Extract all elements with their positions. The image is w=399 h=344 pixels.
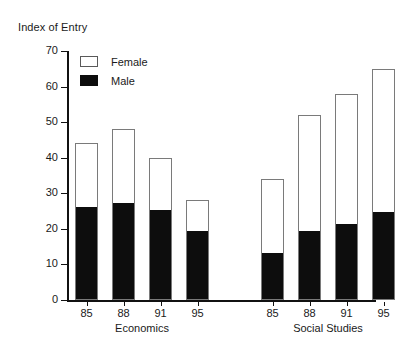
x-tick-label: 91 — [146, 307, 176, 319]
bar-economics-85[interactable] — [75, 143, 98, 300]
bar-social-studies-91[interactable] — [335, 94, 358, 300]
bar-segment-male — [76, 207, 97, 299]
x-tick-label: 91 — [332, 307, 362, 319]
bar-economics-95[interactable] — [186, 200, 209, 300]
x-tick-label: 95 — [183, 307, 213, 319]
bar-segment-male — [262, 253, 283, 299]
bar-segment-male — [187, 231, 208, 299]
x-tick-label: 88 — [109, 307, 139, 319]
legend-swatch-male-icon — [80, 75, 98, 86]
x-tick-mark — [198, 302, 199, 306]
group-label-social-studies: Social Studies — [221, 322, 399, 334]
bar-segment-male — [113, 203, 134, 299]
bar-social-studies-95[interactable] — [372, 69, 395, 300]
x-tick-mark — [87, 302, 88, 306]
legend-label-female: Female — [111, 56, 148, 68]
x-tick-mark — [310, 302, 311, 306]
x-tick-mark — [347, 302, 348, 306]
x-tick-mark — [384, 302, 385, 306]
x-tick-mark — [161, 302, 162, 306]
x-tick-mark — [124, 302, 125, 306]
legend-label-male: Male — [111, 75, 135, 87]
legend: Female Male — [80, 52, 148, 90]
x-tick-mark — [273, 302, 274, 306]
bar-social-studies-88[interactable] — [298, 115, 321, 300]
bar-segment-male — [299, 231, 320, 299]
legend-item-female[interactable]: Female — [80, 52, 148, 71]
x-tick-label: 95 — [369, 307, 399, 319]
bar-segment-male — [336, 224, 357, 299]
bar-segment-male — [150, 210, 171, 299]
bar-social-studies-85[interactable] — [261, 179, 284, 300]
x-tick-label: 85 — [72, 307, 102, 319]
group-label-economics: Economics — [35, 322, 249, 334]
bar-economics-88[interactable] — [112, 129, 135, 300]
legend-swatch-female-icon — [80, 56, 98, 67]
bar-economics-91[interactable] — [149, 158, 172, 300]
bar-segment-male — [373, 212, 394, 299]
x-tick-label: 85 — [258, 307, 288, 319]
x-tick-label: 88 — [295, 307, 325, 319]
legend-item-male[interactable]: Male — [80, 71, 148, 90]
